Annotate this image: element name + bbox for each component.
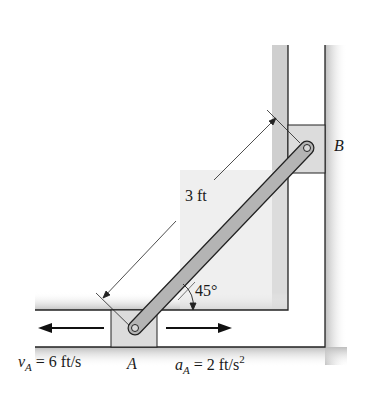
acceleration-exponent: 2 [239,353,245,365]
mechanism-diagram [0,0,367,396]
point-b-label: B [334,137,344,155]
acceleration-value: = 2 ft/s [190,356,239,373]
velocity-label: vA = 6 ft/s [18,353,81,373]
angle-label: 45° [195,282,217,300]
pin-b [304,145,311,152]
acceleration-label: aA = 2 ft/s2 [175,353,245,376]
velocity-arrow [38,323,104,333]
velocity-value: = 6 ft/s [32,353,81,370]
point-a-label: A [127,355,137,373]
guide-shading [35,45,347,367]
pin-a [132,325,139,332]
acceleration-symbol: a [175,356,183,373]
acceleration-subscript: A [183,364,190,376]
rod-length-label: 3 ft [185,187,207,205]
acceleration-arrow [166,323,232,333]
velocity-subscript: A [25,361,32,373]
